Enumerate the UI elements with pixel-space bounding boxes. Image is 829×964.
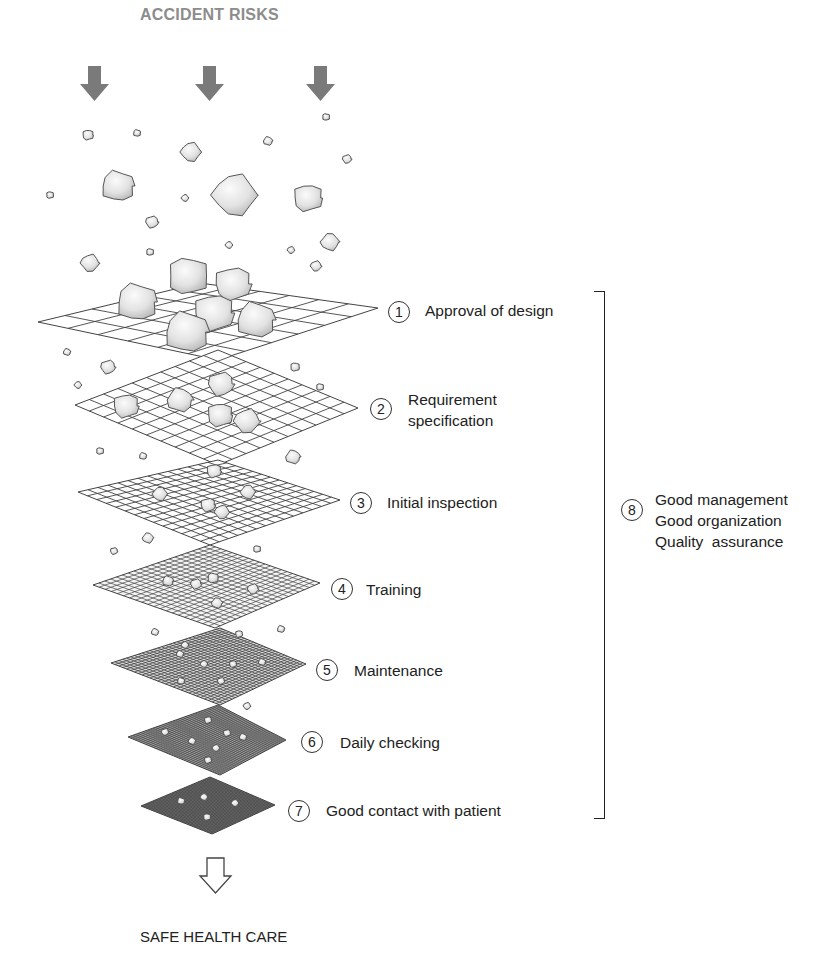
layer-7-grid: [141, 777, 275, 834]
layer-3-number: 3: [350, 492, 372, 514]
layer-4-grid: [93, 545, 320, 628]
group-8-line-2: Good organization: [655, 511, 782, 530]
layer-5-label: Maintenance: [354, 661, 443, 680]
layer-3-label: Initial inspection: [387, 493, 497, 512]
swiss-cheese-diagram: ACCIDENT RISKS 1 Approval of design 2 Re…: [0, 0, 829, 964]
layer-7-label: Good contact with patient: [326, 801, 501, 820]
layer-6-label: Daily checking: [340, 733, 440, 752]
defense-layers: [38, 283, 378, 834]
layer-4-label: Training: [366, 580, 421, 599]
group-8-line-1: Good management: [655, 490, 788, 509]
layer-1-number: 1: [388, 301, 410, 323]
group-8-number: 8: [621, 499, 643, 521]
layer-2-label-line1: Requirement: [408, 390, 497, 409]
down-arrow-filled-icon: [80, 66, 335, 101]
layer-1-label: Approval of design: [425, 301, 553, 320]
layer-2-label-line2: specification: [408, 411, 493, 430]
layer-5-number: 5: [316, 659, 338, 681]
layer-6-number: 6: [301, 731, 323, 753]
layer-6-grid: [128, 705, 286, 775]
layer-2-number: 2: [370, 398, 392, 420]
layer-7-number: 7: [288, 800, 310, 822]
layer-4-number: 4: [331, 578, 353, 600]
bracket: [594, 291, 605, 819]
group-8-line-3: Quality assurance: [655, 532, 783, 551]
safe-health-care-title: SAFE HEALTH CARE: [140, 928, 287, 945]
down-arrow-outline-icon: [200, 858, 231, 893]
layer-5-grid: [111, 628, 306, 705]
